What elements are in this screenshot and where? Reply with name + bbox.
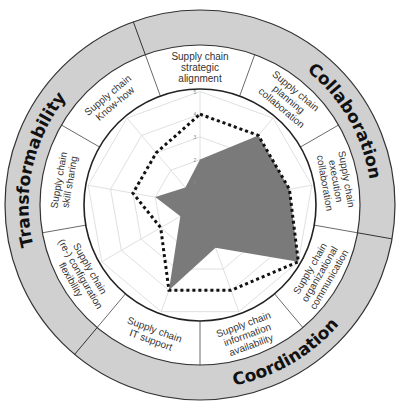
dimension-label-line: strategic [181, 62, 219, 73]
scale-tick-label: 1 [194, 179, 197, 185]
scale-tick-label: 2 [194, 157, 197, 163]
scale-tick-label: 5 [194, 89, 197, 95]
dimension-label-line: alignment [178, 73, 222, 84]
scale-tick-label: 3 [194, 134, 197, 140]
dimension-label-line: Supply chain [171, 51, 228, 62]
supply-chain-radar-diagram: 12345 Supply chainstrategicalignmentSupp… [0, 0, 396, 406]
scale-tick-label: 4 [194, 111, 197, 117]
